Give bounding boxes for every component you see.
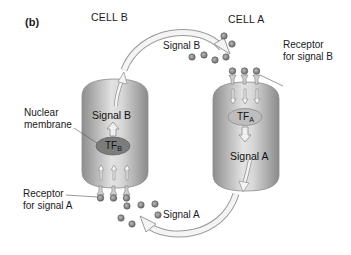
cell-b: [82, 72, 148, 201]
cell-a-title: CELL A: [228, 13, 264, 25]
tf-a-base: TF: [237, 111, 249, 122]
cell-a: [213, 68, 279, 192]
panel-label: (b): [25, 16, 39, 28]
nuclear-membrane-label-line2: membrane: [24, 119, 72, 131]
receptor-a-label-line1: Receptor: [23, 188, 64, 200]
signal-a-transit-label: Signal A: [163, 209, 200, 221]
tf-a-label: TFA: [237, 111, 254, 126]
cell-signaling-diagram: (b) CELL B CELL A Signal B Signal A Rece…: [0, 0, 351, 255]
cell-a-internal-signal-label: Signal A: [230, 150, 269, 162]
receptors-for-signal-a: [97, 186, 130, 201]
tf-b-label: TFB: [105, 140, 122, 155]
cell-b-title: CELL B: [91, 11, 128, 23]
cell-b-internal-signal-label: Signal B: [92, 109, 131, 121]
tf-b-sub: B: [117, 145, 122, 152]
receptor-b-label-line2: for signal B: [283, 51, 333, 63]
tf-b-base: TF: [105, 140, 117, 151]
receptors-for-signal-b: [229, 68, 260, 84]
nuclear-membrane-label-line1: Nuclear: [24, 107, 58, 119]
receptor-a-label-line2: for signal A: [23, 200, 72, 212]
receptor-b-label-line1: Receptor: [283, 39, 324, 51]
tf-a-sub: A: [249, 116, 254, 123]
signal-b-transit-label: Signal B: [163, 40, 200, 52]
export-arrow-icon: [118, 72, 127, 84]
